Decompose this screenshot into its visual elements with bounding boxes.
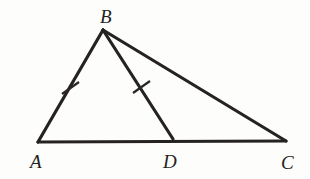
- segment-bc: [103, 30, 286, 141]
- vertex-label-b: B: [100, 6, 112, 27]
- segment-bd: [103, 30, 173, 139]
- vertex-label-d: D: [162, 151, 177, 172]
- vertex-label-c: C: [281, 152, 294, 173]
- vertex-label-a: A: [28, 151, 42, 172]
- segment-ac: [38, 141, 286, 142]
- triangle-diagram-canvas: B A D C: [0, 0, 310, 179]
- geometry-figure: B A D C: [0, 0, 310, 179]
- segment-ab: [38, 30, 103, 142]
